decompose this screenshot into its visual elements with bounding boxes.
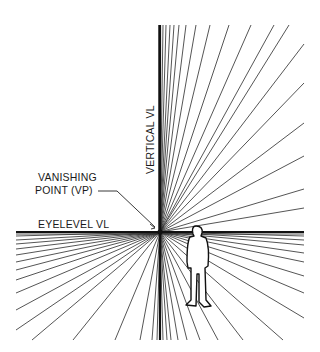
perspective-ray (160, 208, 304, 232)
perspective-ray (160, 232, 304, 293)
perspective-ray (160, 25, 186, 232)
perspective-ray (73, 232, 160, 340)
human-silhouette (186, 226, 211, 307)
perspective-ray (160, 25, 210, 232)
perspective-ray (160, 25, 251, 232)
perspective-diagram: VERTICAL VL VANISHING POINT (VP) EYELEVE… (0, 0, 320, 352)
perspective-ray (160, 25, 289, 232)
perspective-ray (160, 189, 304, 232)
eyelevel-vl-label: EYELEVEL VL (38, 218, 109, 230)
perspective-ray (160, 44, 304, 232)
perspective-ray (160, 25, 274, 232)
vertical-vl-label: VERTICAL VL (144, 105, 156, 174)
vanishing-point-label-line1: VANISHING (38, 171, 97, 183)
perspective-ray (160, 83, 304, 232)
perspective-ray (160, 232, 283, 340)
diagram-svg: VERTICAL VL VANISHING POINT (VP) EYELEVE… (0, 0, 320, 352)
perspective-ray (160, 232, 187, 340)
perspective-ray (32, 232, 160, 340)
perspective-ray (160, 232, 304, 318)
human-figure-icon (186, 226, 211, 307)
perspective-ray (160, 123, 304, 232)
perspective-ray (160, 25, 174, 232)
perspective-ray (140, 232, 160, 340)
vanishing-point-dot (157, 229, 162, 234)
perspective-ray (160, 232, 304, 262)
vanishing-point-label-line2: POINT (VP) (35, 184, 93, 196)
